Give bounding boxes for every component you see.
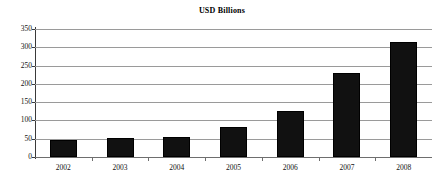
bar (220, 127, 247, 157)
gridline (35, 66, 432, 67)
gridline (35, 84, 432, 85)
x-tick-label: 2004 (148, 164, 205, 172)
x-tick-label: 2008 (375, 164, 432, 172)
gridline (35, 29, 432, 30)
y-axis-labels: 050100150200250300350 (0, 0, 32, 189)
gridline (35, 102, 432, 103)
chart-title: USD Billions (0, 6, 444, 15)
x-axis-tick (319, 157, 320, 161)
bar (333, 73, 360, 157)
bar (163, 137, 190, 157)
y-tick-label: 300 (2, 43, 32, 51)
x-axis-tick (205, 157, 206, 161)
y-tick-label: 0 (2, 153, 32, 161)
x-tick-label: 2005 (205, 164, 262, 172)
x-axis-tick (262, 157, 263, 161)
gridline (35, 157, 432, 158)
y-tick-label: 100 (2, 116, 32, 124)
bar (50, 140, 77, 157)
bar (277, 111, 304, 157)
x-tick-label: 2007 (319, 164, 376, 172)
x-axis-labels: 2002200320042005200620072008 (35, 162, 432, 182)
y-tick-label: 50 (2, 135, 32, 143)
x-tick-label: 2006 (262, 164, 319, 172)
y-tick-label: 250 (2, 62, 32, 70)
y-tick-label: 200 (2, 80, 32, 88)
bar (107, 138, 134, 157)
gridline (35, 47, 432, 48)
x-tick-label: 2002 (35, 164, 92, 172)
y-tick-label: 150 (2, 98, 32, 106)
gridline (35, 120, 432, 121)
y-tick-label: 350 (2, 25, 32, 33)
plot-area (35, 29, 432, 157)
x-axis-tick (92, 157, 93, 161)
bar-chart: USD Billions 050100150200250300350 20022… (0, 0, 444, 189)
x-tick-label: 2003 (92, 164, 149, 172)
x-axis-tick (148, 157, 149, 161)
x-axis-tick (375, 157, 376, 161)
bar (390, 42, 417, 157)
